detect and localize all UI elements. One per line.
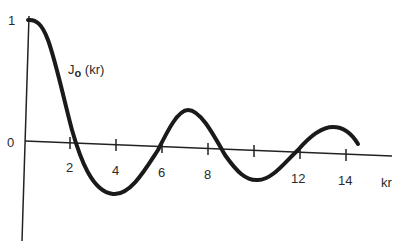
x-tick-6: 6 — [158, 166, 165, 179]
y-tick-1: 1 — [8, 14, 15, 27]
y-tick-0: 0 — [7, 136, 14, 149]
x-axis-label: kr — [381, 176, 392, 189]
bessel-chart — [0, 0, 401, 251]
x-tick-8: 8 — [204, 168, 211, 181]
j0-curve — [28, 20, 358, 194]
x-tick-2: 2 — [66, 161, 73, 174]
x-tick-4: 4 — [112, 164, 119, 177]
x-tick-12: 12 — [291, 172, 305, 185]
y-axis — [22, 16, 29, 241]
x-tick-14: 14 — [338, 174, 352, 187]
curve-label: Jo (kr) — [68, 62, 104, 79]
